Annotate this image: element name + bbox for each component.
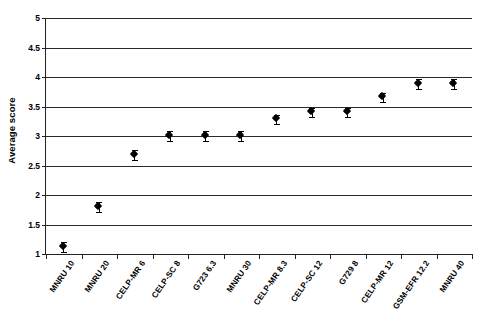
- y-tick-label: 5: [35, 13, 40, 23]
- data-point-marker: [58, 241, 66, 249]
- gridline: [46, 77, 472, 78]
- x-axis-label-text: G729 8: [337, 259, 360, 287]
- error-bar-cap: [132, 160, 138, 161]
- x-tick-mark: [117, 254, 118, 259]
- x-tick-mark: [46, 254, 47, 259]
- y-tick-label: 2.5: [28, 161, 40, 171]
- y-axis-title: Average score: [0, 0, 22, 260]
- y-tick-mark: [42, 107, 46, 108]
- x-tick-mark: [82, 254, 83, 259]
- y-tick-label: 4: [35, 72, 40, 82]
- plot-area: 54.543.532.521.51: [45, 18, 472, 255]
- error-bar-cap: [274, 124, 280, 125]
- x-axis-label: MNRU 30: [225, 259, 253, 294]
- x-axis-label: GSM-EFR 12.2: [391, 259, 431, 311]
- x-axis-label: G723 6.3: [191, 259, 218, 292]
- x-axis-label: MNRU 10: [48, 259, 76, 294]
- x-tick-mark: [472, 254, 473, 259]
- gridline: [46, 195, 472, 196]
- gridline: [46, 225, 472, 226]
- gridline: [46, 18, 472, 19]
- x-axis-label: MNRU 20: [83, 259, 111, 294]
- y-tick-mark: [42, 48, 46, 49]
- x-axis-label-text: CELP-SC 12: [290, 259, 325, 304]
- error-bar-cap: [96, 212, 102, 213]
- x-axis-label-text: MNRU 30: [225, 259, 253, 294]
- data-point-marker: [165, 131, 173, 139]
- x-tick-mark: [295, 254, 296, 259]
- gridline: [46, 166, 472, 167]
- y-tick-mark: [42, 225, 46, 226]
- x-axis-label-text: MNRU 10: [48, 259, 76, 294]
- y-tick-label: 3: [35, 131, 40, 141]
- x-axis-label: CELP-SC 12: [290, 259, 325, 304]
- x-tick-mark: [188, 254, 189, 259]
- y-axis-title-label: Average score: [6, 97, 17, 163]
- error-bar-cap: [203, 141, 209, 142]
- x-axis-label-text: CELP-SC 8: [150, 259, 182, 300]
- error-bar-cap: [61, 252, 67, 253]
- x-axis-label-text: CELP-MR 8.3: [252, 259, 289, 307]
- gridline: [46, 136, 472, 137]
- x-tick-mark: [366, 254, 367, 259]
- gridline: [46, 107, 472, 108]
- error-bar-cap: [451, 89, 457, 90]
- y-tick-label: 2: [35, 190, 40, 200]
- x-tick-mark: [330, 254, 331, 259]
- error-bar-cap: [345, 117, 351, 118]
- x-axis-label: CELP-MR 8.3: [252, 259, 289, 307]
- error-bar-cap: [416, 89, 422, 90]
- x-axis-label-text: MNRU 40: [438, 259, 466, 294]
- x-axis-label-text: CELP-MR 6: [114, 259, 147, 301]
- x-axis-label-text: G723 6.3: [191, 259, 218, 292]
- y-tick-mark: [42, 77, 46, 78]
- y-tick-label: 3.5: [28, 102, 40, 112]
- data-point-marker: [271, 114, 279, 122]
- chart-container: Average score 54.543.532.521.51 MNRU 10M…: [0, 0, 498, 318]
- y-tick-mark: [42, 195, 46, 196]
- y-tick-label: 1: [35, 249, 40, 259]
- x-axis-label: CELP-MR 6: [114, 259, 147, 301]
- y-tick-label: 4.5: [28, 43, 40, 53]
- gridline: [46, 48, 472, 49]
- x-tick-mark: [259, 254, 260, 259]
- y-tick-mark: [42, 136, 46, 137]
- x-axis-label-text: CELP-MR 12: [360, 259, 396, 305]
- error-bar-cap: [309, 117, 315, 118]
- data-point-marker: [200, 131, 208, 139]
- x-axis-label-text: GSM-EFR 12.2: [391, 259, 431, 311]
- y-tick-mark: [42, 166, 46, 167]
- error-bar-cap: [380, 102, 386, 103]
- y-tick-label: 1.5: [28, 220, 40, 230]
- x-axis-label: CELP-MR 12: [360, 259, 396, 305]
- x-tick-mark: [153, 254, 154, 259]
- x-axis-label: CELP-SC 8: [150, 259, 182, 300]
- x-tick-mark: [224, 254, 225, 259]
- error-bar-cap: [167, 141, 173, 142]
- x-tick-mark: [437, 254, 438, 259]
- x-axis-label-text: MNRU 20: [83, 259, 111, 294]
- x-tick-mark: [401, 254, 402, 259]
- data-point-marker: [236, 131, 244, 139]
- error-bar-cap: [238, 141, 244, 142]
- data-point-marker: [94, 201, 102, 209]
- y-tick-mark: [42, 18, 46, 19]
- x-axis-label: G729 8: [337, 259, 360, 287]
- x-axis-label: MNRU 40: [438, 259, 466, 294]
